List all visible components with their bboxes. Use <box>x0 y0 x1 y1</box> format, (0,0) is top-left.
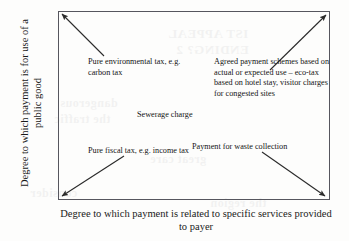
label-pure-environmental-tax: Pure environmental tax, e.g. carbon tax <box>88 57 192 78</box>
label-payment-waste-collection: Payment for waste collection <box>192 142 296 153</box>
plot-frame <box>58 11 330 200</box>
diagram-page: IST APPEAL ENDING? 2 dangerous the traff… <box>0 0 349 241</box>
x-axis-label: Degree to which payment is related to sp… <box>60 207 332 233</box>
label-agreed-payment-schemes: Agreed payment schemes based on actual o… <box>214 57 330 99</box>
label-sewerage-charge: Sewerage charge <box>137 110 247 121</box>
y-axis-label: Degree to which payment is for use of a … <box>18 8 44 198</box>
label-pure-fiscal-tax: Pure fiscal tax, e.g. income tax <box>88 146 192 157</box>
